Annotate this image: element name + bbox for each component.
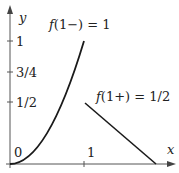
- y-tick-label-1-2: 1/2: [16, 95, 37, 110]
- right-limit-annotation: f(1+) = 1/2: [95, 89, 170, 104]
- left-limit-annotation: f(1−) = 1: [48, 17, 111, 32]
- origin-label: 0: [14, 145, 22, 160]
- right-piece-line: [85, 103, 156, 164]
- x-axis-arrow-icon: [167, 161, 176, 167]
- x-axis-label: x: [167, 142, 175, 157]
- x-tick-label-1: 1: [87, 145, 95, 160]
- y-axis-arrow-icon: [7, 5, 13, 14]
- y-tick-label-3-4: 3/4: [16, 65, 37, 80]
- function-graph: 1 3/4 1/2 1 0 y x f(1−) = 1 f(1+) = 1/2: [0, 0, 179, 173]
- y-axis-label: y: [18, 10, 27, 25]
- y-tick-label-1: 1: [16, 34, 24, 49]
